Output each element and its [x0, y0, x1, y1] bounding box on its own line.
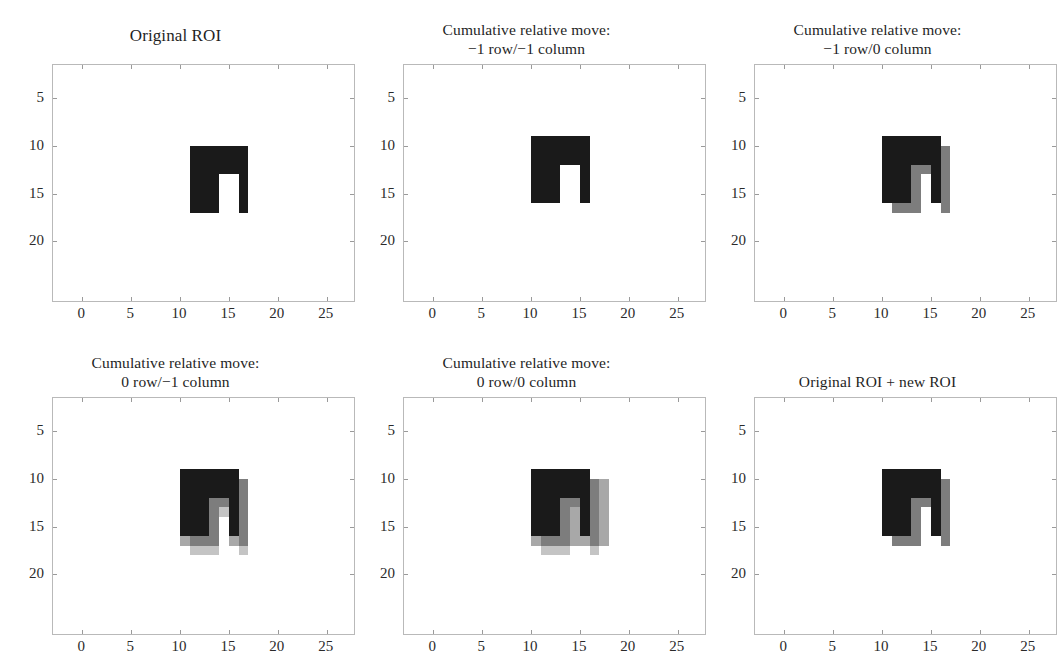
roi-cell	[531, 165, 560, 203]
x-tick-mark	[629, 297, 630, 301]
axes-frame	[52, 397, 355, 635]
x-tick-label: 15	[220, 305, 235, 322]
panel-title-line-1: Original ROI	[130, 26, 221, 45]
x-tick-mark	[131, 630, 132, 634]
x-tick-mark	[131, 398, 132, 402]
roi-cell	[941, 174, 951, 212]
y-tick-mark	[1052, 194, 1056, 195]
x-tick-mark	[531, 398, 532, 402]
x-tick-mark	[1029, 65, 1030, 69]
panel-title: Original ROI	[0, 26, 351, 45]
x-tick-mark	[833, 297, 834, 301]
x-tick-label: 20	[269, 638, 284, 655]
x-tick-label: 10	[874, 638, 889, 655]
roi-cell	[599, 507, 609, 545]
y-tick-mark	[1052, 241, 1056, 242]
y-tick-mark	[404, 431, 408, 432]
x-tick-mark	[327, 630, 328, 634]
x-tick-label: 5	[828, 638, 836, 655]
panel-title-line-1: Cumulative relative move:	[92, 354, 260, 371]
x-tick-label: 25	[669, 638, 684, 655]
roi-cell	[229, 498, 239, 536]
x-tick-mark	[580, 297, 581, 301]
x-tick-mark	[180, 398, 181, 402]
y-tick-mark	[404, 527, 408, 528]
roi-cell	[531, 136, 590, 165]
y-tick-mark	[1052, 146, 1056, 147]
y-tick-label: 5	[14, 422, 44, 439]
y-tick-label: 10	[365, 136, 395, 153]
roi-cell	[239, 507, 249, 545]
x-tick-mark	[931, 398, 932, 402]
y-tick-label: 15	[716, 517, 746, 534]
x-tick-mark	[433, 297, 434, 301]
x-tick-mark	[278, 630, 279, 634]
x-tick-mark	[784, 630, 785, 634]
x-tick-mark	[229, 297, 230, 301]
x-tick-mark	[980, 65, 981, 69]
x-tick-mark	[980, 297, 981, 301]
x-tick-mark	[180, 297, 181, 301]
roi-cell	[190, 174, 219, 212]
x-tick-mark	[433, 65, 434, 69]
y-tick-mark	[53, 431, 57, 432]
x-tick-label: 5	[477, 305, 485, 322]
axes-frame	[754, 64, 1057, 302]
y-tick-label: 10	[716, 469, 746, 486]
x-tick-label: 10	[172, 638, 187, 655]
x-tick-label: 10	[874, 305, 889, 322]
roi-cell	[590, 507, 600, 545]
x-tick-mark	[882, 398, 883, 402]
roi-cell	[180, 498, 209, 536]
panel-title: Cumulative relative move:−1 row/0 column	[702, 20, 1053, 58]
x-tick-mark	[678, 398, 679, 402]
y-tick-mark	[755, 146, 759, 147]
x-tick-mark	[784, 398, 785, 402]
roi-cell	[180, 469, 239, 498]
x-tick-label: 15	[220, 638, 235, 655]
axes-frame	[754, 397, 1057, 635]
x-tick-label: 25	[1020, 305, 1035, 322]
y-tick-mark	[1052, 98, 1056, 99]
roi-cell	[882, 469, 941, 498]
x-tick-label: 15	[571, 638, 586, 655]
x-tick-label: 0	[780, 638, 788, 655]
y-tick-mark	[53, 98, 57, 99]
x-tick-label: 20	[971, 305, 986, 322]
roi-cell	[531, 498, 560, 536]
panel-title-line-1: Cumulative relative move:	[443, 21, 611, 38]
x-tick-mark	[327, 297, 328, 301]
y-tick-mark	[755, 431, 759, 432]
x-tick-label: 0	[78, 638, 86, 655]
x-tick-mark	[82, 65, 83, 69]
x-tick-mark	[131, 65, 132, 69]
x-tick-label: 15	[922, 305, 937, 322]
y-tick-mark	[755, 527, 759, 528]
x-tick-mark	[278, 65, 279, 69]
x-tick-mark	[678, 297, 679, 301]
panel-title-line-2: 0 row/−1 column	[0, 372, 351, 391]
x-tick-mark	[980, 630, 981, 634]
x-tick-mark	[131, 297, 132, 301]
y-tick-label: 5	[365, 422, 395, 439]
x-tick-label: 15	[571, 305, 586, 322]
y-tick-label: 20	[365, 232, 395, 249]
y-tick-mark	[404, 479, 408, 480]
y-tick-mark	[404, 98, 408, 99]
panel-title-line-1: Cumulative relative move:	[443, 354, 611, 371]
x-tick-mark	[580, 65, 581, 69]
roi-cell	[882, 136, 941, 165]
panel-title-line-1: Original ROI + new ROI	[799, 373, 956, 390]
roi-cell	[931, 498, 941, 536]
y-tick-mark	[53, 479, 57, 480]
panel-title-line-2: −1 row/−1 column	[351, 39, 702, 58]
x-tick-mark	[678, 65, 679, 69]
y-tick-mark	[53, 241, 57, 242]
x-tick-mark	[229, 630, 230, 634]
x-tick-label: 10	[523, 305, 538, 322]
x-tick-mark	[482, 398, 483, 402]
y-tick-mark	[755, 194, 759, 195]
y-tick-mark	[404, 574, 408, 575]
x-tick-mark	[82, 630, 83, 634]
